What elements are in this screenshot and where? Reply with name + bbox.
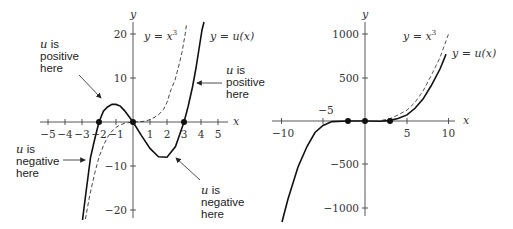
left-root-minus2 (96, 119, 102, 125)
svg-text:4: 4 (198, 128, 205, 140)
svg-text:10: 10 (114, 72, 127, 84)
left-x-tick-labels: −5 −4 −3 −2 −1 1 2 3 4 5 (40, 128, 221, 140)
svg-text:−10: −10 (105, 160, 127, 172)
svg-text:−5: −5 (318, 104, 333, 116)
svg-text:−5: −5 (40, 128, 55, 140)
left-arrow-positive-1 (79, 75, 101, 98)
svg-text:2: 2 (164, 128, 171, 140)
right-cubic-label: y = x3 (402, 29, 436, 43)
left-y-axis-label: y (129, 8, 137, 21)
svg-text:−2: −2 (91, 128, 106, 140)
svg-text:10: 10 (442, 127, 455, 139)
svg-text:−20: −20 (105, 204, 127, 216)
right-root-0 (362, 118, 368, 124)
svg-text:5: 5 (404, 127, 411, 139)
svg-text:3: 3 (181, 128, 188, 140)
right-root-minus2 (345, 118, 351, 124)
svg-text:20: 20 (114, 28, 127, 40)
svg-text:−500: −500 (330, 158, 359, 170)
right-x-axis-label: x (463, 114, 470, 127)
figure-canvas: y x 20 10 −10 −20 −5 −4 −3 −2 −1 1 2 3 4… (0, 0, 513, 229)
left-u-label: y = u(x) (209, 30, 254, 43)
svg-text:5: 5 (215, 128, 222, 140)
svg-text:−1: −1 (108, 128, 123, 140)
annotation-negative-left: u is negative here (16, 143, 59, 179)
right-u-label: y = u(x) (451, 47, 496, 60)
left-arrow-negative-2 (176, 158, 200, 180)
right-u-curve (282, 54, 446, 222)
annotation-positive-right: u is positive here (226, 64, 265, 100)
svg-text:−3: −3 (74, 128, 89, 140)
svg-text:500: 500 (339, 72, 359, 84)
svg-text:1: 1 (147, 128, 154, 140)
svg-text:−4: −4 (57, 128, 73, 140)
annotation-negative-right: u is negative here (201, 184, 244, 220)
svg-text:−10: −10 (272, 127, 294, 139)
right-chart: y x 1000 500 −500 −1000 −10 −5 5 10 y = … (272, 8, 496, 222)
left-root-0 (130, 119, 136, 125)
right-root-3 (387, 118, 393, 124)
annotation-positive-left: u is positive here (40, 38, 79, 74)
left-root-3 (181, 119, 187, 125)
left-cubic-label: y = x3 (143, 29, 177, 43)
svg-text:−1000: −1000 (323, 202, 359, 214)
svg-text:1000: 1000 (332, 28, 359, 40)
right-y-axis-label: y (361, 8, 369, 21)
left-x-axis-label: x (233, 115, 240, 128)
